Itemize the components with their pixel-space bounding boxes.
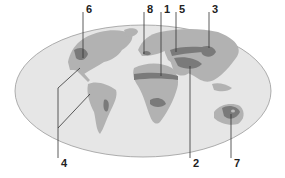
label-8: 8 (147, 4, 153, 15)
label-5: 5 (179, 4, 185, 15)
label-2: 2 (193, 158, 199, 169)
label-7: 7 (234, 158, 240, 169)
label-4: 4 (61, 158, 67, 169)
world-map (0, 0, 285, 178)
label-3: 3 (212, 4, 218, 15)
region-south-america-east (103, 100, 108, 112)
australia-spot (231, 110, 235, 113)
label-6: 6 (86, 4, 92, 15)
label-1: 1 (164, 4, 170, 15)
